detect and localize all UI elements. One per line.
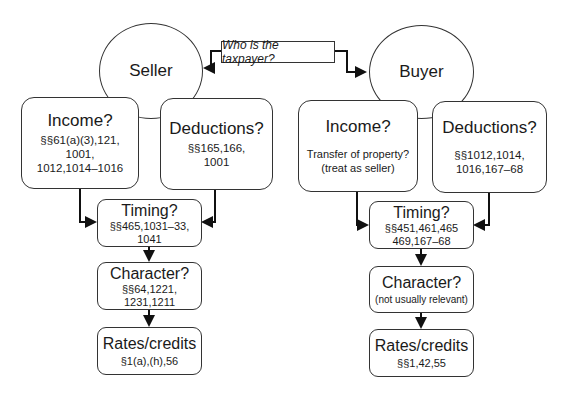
seller-rates-ref: §1(a),(h),56 [121,355,178,368]
seller-deductions-title: Deductions? [169,119,264,139]
buyer-income-ref: Transfer of property? [307,147,409,161]
buyer-income-ref: (treat as seller) [307,161,409,175]
buyer-character-box: Character? (not usually relevant) [369,266,474,313]
seller-character-title: Character? [110,264,189,283]
taxpayer-question-label: Who is the taxpayer? [222,38,334,66]
seller-deductions-ref: §§165,166, [188,141,246,155]
seller-timing-title: Timing? [121,201,177,220]
buyer-label: Buyer [399,62,443,82]
taxpayer-question-box: Who is the taxpayer? [221,41,335,63]
buyer-deductions-ref: 1016,167–68 [454,162,524,176]
seller-timing-box: Timing? §§465,1031–33, 1041 [97,199,202,247]
seller-label: Seller [129,61,172,81]
seller-income-ref: 1012,1014–1016 [37,161,123,175]
buyer-rates-title: Rates/credits [375,336,468,355]
buyer-rates-box: Rates/credits §§1,42,55 [369,329,474,377]
buyer-timing-title: Timing? [393,203,449,222]
seller-deductions-box: Deductions? §§165,166, 1001 [160,98,273,190]
seller-rates-title: Rates/credits [103,334,196,353]
buyer-deductions-ref: §§1012,1014, [454,148,524,162]
buyer-rates-ref: §§1,42,55 [397,357,446,370]
buyer-deductions-title: Deductions? [442,118,537,138]
seller-income-ref: 1001, [37,147,123,161]
buyer-timing-box: Timing? §§451,461,465 469,167–68 [369,201,474,249]
seller-timing-ref: §§465,1031–33, [110,220,190,233]
buyer-timing-ref: §§451,461,465 [385,222,458,235]
seller-character-box: Character? §§64,1221, 1231,1211 [97,262,202,310]
buyer-income-title: Income? [325,117,390,137]
seller-income-title: Income? [47,111,112,131]
seller-character-ref: 1231,1211 [122,296,177,309]
buyer-deductions-box: Deductions? §§1012,1014, 1016,167–68 [432,101,547,193]
seller-income-ref: §§61(a)(3),121, [37,133,123,147]
buyer-character-title: Character? [382,273,461,292]
buyer-income-box: Income? Transfer of property? (treat as … [298,100,418,192]
seller-rates-box: Rates/credits §1(a),(h),56 [97,327,202,375]
seller-income-box: Income? §§61(a)(3),121, 1001, 1012,1014–… [21,97,139,189]
seller-timing-ref: 1041 [110,233,190,246]
buyer-character-ref: (not usually relevant) [375,293,468,306]
buyer-timing-ref: 469,167–68 [385,235,458,248]
seller-character-ref: §§64,1221, [122,283,177,296]
seller-deductions-ref: 1001 [188,155,246,169]
